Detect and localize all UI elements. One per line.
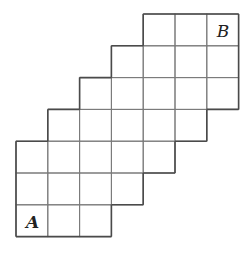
staircase-grid-diagram: A B [0,0,246,253]
grid-cell [111,109,143,141]
grid-cell [175,46,207,78]
grid-cell [143,46,175,78]
grid-cell [111,173,143,205]
grid-cell [111,141,143,173]
grid-cell [48,141,80,173]
grid-cell [143,141,175,173]
grid-cell [175,78,207,110]
grid-cell [80,173,112,205]
grid-cell [111,46,143,78]
grid-cell [175,14,207,46]
grid-cell [48,205,80,237]
grid-cell [16,173,48,205]
grid-cells [16,14,239,237]
grid-outline [16,14,239,237]
label-b: B [216,21,230,41]
grid-cell [207,46,239,78]
grid-cell [143,109,175,141]
grid-cell [80,205,112,237]
grid-cell [48,173,80,205]
grid-cell [143,78,175,110]
grid-cell [175,109,207,141]
grid-cell [111,78,143,110]
grid-cell [80,141,112,173]
grid-cell [16,141,48,173]
label-a: A [24,212,39,232]
grid-cell [48,109,80,141]
grid-cell [80,78,112,110]
grid-cell [143,14,175,46]
grid-cell [207,78,239,110]
grid-cell [80,109,112,141]
